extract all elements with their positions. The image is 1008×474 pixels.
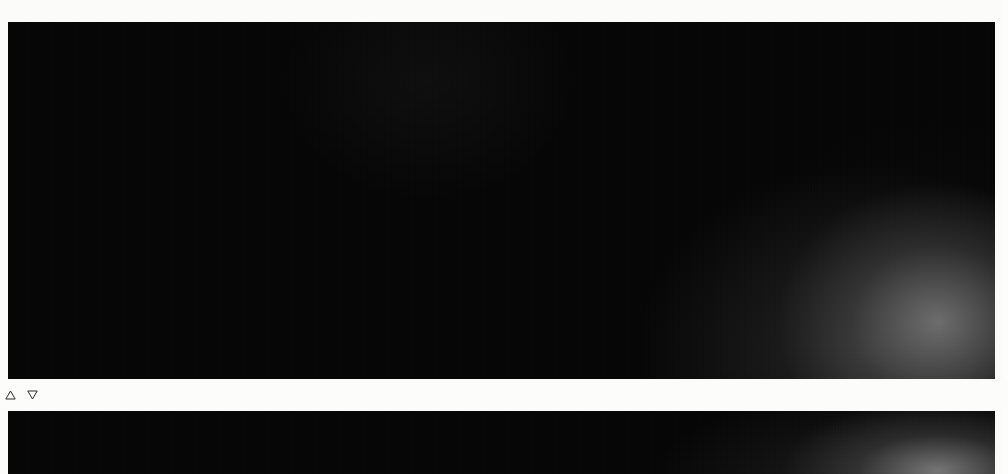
triangle-up-icon [5,390,16,400]
chart-vignette-glow [8,22,995,379]
film-grain-overlay-bottom [8,411,995,474]
chart-vignette-glow-bottom [8,411,995,474]
triangle-down-icon [27,390,38,400]
page-prev-marker[interactable] [5,390,18,400]
page-navigation [0,381,1008,409]
bar-chart-bottom [8,411,995,474]
bar-chart-top [8,22,995,379]
page-next-marker[interactable] [27,390,40,400]
film-grain-overlay [8,22,995,379]
